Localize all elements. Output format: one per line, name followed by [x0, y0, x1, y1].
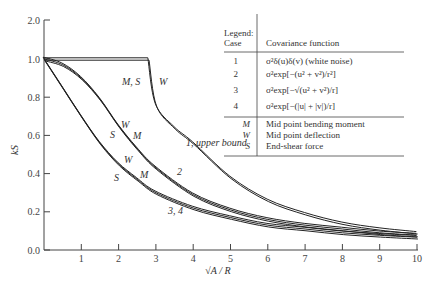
- svg-text:0.6: 0.6: [28, 130, 41, 141]
- svg-text:1: 1: [79, 253, 84, 264]
- legend-function-1: σ²δ(u)δ(v) (white noise): [266, 56, 353, 66]
- svg-text:2.0: 2.0: [28, 15, 41, 26]
- legend-case-3: 3: [234, 85, 239, 95]
- x-ticks: 12345678910: [79, 244, 422, 264]
- annotation-3-4: 3, 4: [167, 205, 183, 216]
- svg-text:2: 2: [116, 253, 121, 264]
- curve-3: [45, 61, 418, 239]
- annotation-ms: M, S: [121, 76, 140, 87]
- legend-meaning-w: Mid point deflection: [266, 130, 340, 140]
- svg-text:1.0: 1.0: [28, 54, 41, 65]
- svg-text:5: 5: [228, 253, 233, 264]
- annotation-w-34: W: [124, 154, 134, 165]
- svg-text:4: 4: [191, 253, 196, 264]
- annotation-s-34: S: [114, 172, 119, 183]
- legend-function-3: σ²exp[−√(u² + v²)/r]: [266, 85, 338, 95]
- legend-case-2: 2: [234, 69, 239, 79]
- legend-symbol-m: M: [242, 119, 251, 129]
- annotation-w-2: W: [121, 119, 131, 130]
- svg-text:0.4: 0.4: [28, 168, 41, 179]
- x-axis-label: √A / R: [205, 265, 230, 276]
- svg-text:10: 10: [412, 253, 422, 264]
- svg-text:0.8: 0.8: [28, 92, 41, 103]
- svg-text:9: 9: [377, 253, 382, 264]
- annotation-s-2: S: [110, 129, 115, 140]
- svg-text:6: 6: [265, 253, 270, 264]
- legend-case-1: 1: [234, 56, 239, 66]
- svg-text:8: 8: [340, 253, 345, 264]
- legend-title: Legend:: [224, 28, 254, 38]
- legend-meaning-s: End-shear force: [266, 141, 323, 151]
- legend-case-4: 4: [234, 101, 239, 111]
- legend-symbol-w: W: [243, 130, 252, 140]
- legend-function-header: Covariance function: [266, 38, 340, 48]
- annotation-2: 2: [177, 166, 182, 177]
- legend-table: Legend: Case Covariance function 1 σ²δ(u…: [224, 14, 404, 156]
- svg-text:0.2: 0.2: [28, 206, 41, 217]
- y-axis-label: kS: [8, 145, 20, 155]
- annotation-m-2: M: [132, 130, 142, 141]
- y-ticks: 0.00.20.40.60.81.02.0: [28, 15, 51, 256]
- legend-symbol-s: S: [246, 141, 251, 151]
- svg-text:7: 7: [303, 253, 308, 264]
- annotation-upper-bound: 1, upper bound: [186, 137, 248, 148]
- curves: [43, 57, 418, 239]
- chart: 0.00.20.40.60.81.02.0 12345678910 kS √A …: [0, 0, 435, 294]
- svg-text:0.0: 0.0: [28, 245, 41, 256]
- legend-function-2: σ²exp[−(u² + v²)/r²]: [266, 69, 336, 79]
- legend-case-header: Case: [224, 38, 242, 48]
- curve-3: [44, 59, 417, 237]
- annotation-w-upper: W: [159, 76, 169, 87]
- legend-meaning-m: Mid point bending moment: [266, 119, 365, 129]
- legend-function-4: σ²exp[−(|u| + |v|)/r]: [266, 101, 335, 111]
- annotation-m-34: M: [139, 169, 149, 180]
- svg-text:3: 3: [153, 253, 158, 264]
